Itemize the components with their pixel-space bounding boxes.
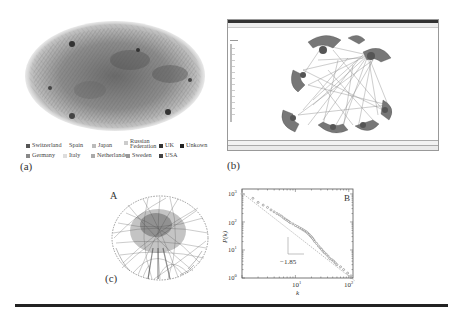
legend-label: UK: [165, 141, 174, 148]
legend-label: Netherlands: [97, 151, 127, 158]
legend-item-switzerland: Switzerland: [26, 141, 62, 148]
panel-label-b: (b): [227, 159, 240, 171]
legend-label: USA: [165, 151, 177, 158]
legend-item-spain: Spain: [69, 141, 83, 148]
legend-label: Japan: [98, 141, 112, 148]
legend-label: Germany: [32, 151, 55, 158]
legend-item-sweden: Sweden: [126, 151, 152, 158]
legend-label: Switzerland: [32, 141, 62, 148]
window-status-bar-2: [228, 145, 438, 150]
x-tick-100: 102: [344, 280, 353, 289]
panel-label-a: (a): [20, 160, 32, 172]
bottom-rule: [15, 304, 448, 307]
legend-item-germany: Germany: [26, 151, 55, 158]
y-axis-label: P(k): [222, 230, 229, 244]
fit-line: [242, 193, 355, 281]
legend-swatch: [159, 144, 163, 148]
window-side-legend: [230, 40, 238, 125]
legend-item-italy: Italy: [63, 151, 80, 158]
legend-swatch: [92, 144, 96, 148]
legend-swatch: [26, 144, 30, 148]
legend-swatch: [180, 144, 184, 148]
y-tick-1000: 103: [228, 189, 238, 197]
legend-label: Italy: [69, 151, 80, 158]
y-tick-1: 100: [228, 273, 238, 281]
legend-label: Spain: [69, 141, 83, 148]
slope-annotation: −1.85: [280, 258, 297, 266]
legend-swatch: [159, 154, 163, 158]
legend-swatch: [26, 154, 30, 158]
legend-item-usa: USA: [159, 151, 177, 158]
y-tick-10: 101: [228, 245, 237, 253]
subpanel-label-a: A: [110, 190, 117, 201]
window-menu-bar: [228, 23, 438, 28]
legend-item-unknown: Unkown: [180, 141, 207, 148]
legend-label: Unkown: [186, 141, 207, 148]
x-tick-10: 101: [292, 280, 301, 289]
legend-swatch: [63, 154, 67, 158]
panel-c-a-network: [108, 193, 213, 283]
legend-swatch: [91, 154, 95, 158]
y-tick-100: 102: [228, 218, 237, 226]
legend-label: Sweden: [132, 151, 152, 158]
legend-swatch: [124, 141, 128, 145]
legend-label: Russian Federation: [130, 137, 156, 149]
x-axis-label: k: [296, 289, 299, 297]
network-graph-b: [263, 30, 413, 138]
legend-item-japan: Japan: [92, 141, 112, 148]
legend-item-russian-federation: Russian Federation: [124, 138, 158, 148]
software-window: [227, 19, 439, 151]
legend-item-netherlands: Netherlands: [91, 151, 127, 158]
network-graph-a: [20, 18, 210, 138]
subpanel-label-b: B: [344, 193, 350, 203]
panel-a-network: [20, 18, 210, 138]
panel-label-c: (c): [105, 272, 117, 284]
legend-item-uk: UK: [159, 141, 174, 148]
chart-svg: −1.85 B 103 102 101 100 101 102 P(k): [222, 183, 362, 289]
legend-swatch: [126, 154, 130, 158]
degree-distribution-chart: −1.85 B 103 102 101 100 101 102 P(k): [222, 183, 362, 289]
